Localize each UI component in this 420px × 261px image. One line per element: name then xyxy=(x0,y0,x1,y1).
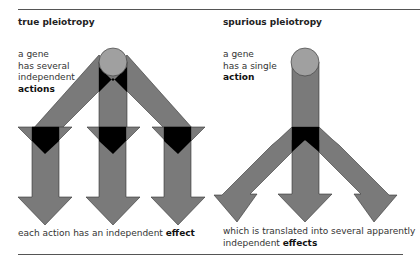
right-gene-circle xyxy=(291,48,319,76)
right-effect-arrow-right xyxy=(319,127,397,222)
left-gene-circle xyxy=(99,48,127,76)
pleiotropy-diagram xyxy=(0,0,420,261)
right-effect-arrow-left xyxy=(214,127,292,222)
